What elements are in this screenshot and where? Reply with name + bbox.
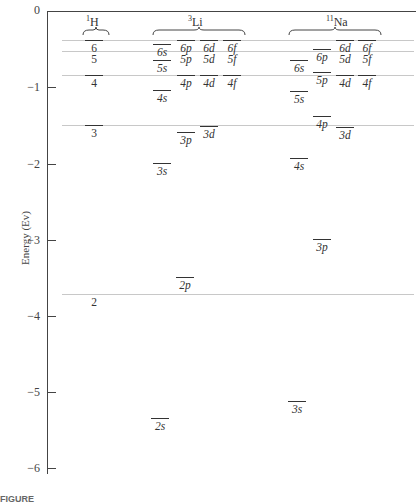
tick-label-minus-2: −2 [10,157,40,172]
level-li-4d: 4d [200,75,218,89]
level-li-2s: 2s [151,418,169,432]
level-li-5s: 5s [153,60,171,74]
tick-label-minus-5: −5 [10,385,40,400]
figure-caption: FIGURE [0,494,34,504]
reference-line-n3 [62,125,414,126]
tick-label-0: 0 [10,3,40,18]
tick-label-minus-6: −6 [10,461,40,476]
tick-label-minus-1: −1 [10,80,40,95]
level-na-5p: 5p [313,72,331,86]
level-na-3s: 3s [288,401,306,415]
brace-hydrogen [82,27,110,36]
level-li-3p: 3p [177,132,195,146]
level-li-5f: 5f [223,51,241,65]
level-li-3d: 3d [200,126,218,140]
tick-minus-3 [47,240,56,241]
level-na-5f: 5f [358,51,376,65]
tick-minus-1 [47,87,56,88]
level-li-5d: 5d [200,51,218,65]
level-h-n2: 2 [85,294,103,308]
level-na-4f: 4f [358,75,376,89]
level-na-6s: 6s [290,60,308,74]
level-na-5s: 5s [290,91,308,105]
brace-sodium [288,27,382,36]
level-h-n3: 3 [85,125,103,139]
level-na-4s: 4s [290,158,308,172]
level-li-3s: 3s [153,163,171,177]
tick-minus-5 [47,392,56,393]
level-h-n4: 4 [85,75,103,89]
level-na-3p: 3p [313,239,331,253]
brace-lithium [152,27,246,36]
tick-minus-2 [47,164,56,165]
tick-minus-6 [47,468,56,469]
level-na-3d: 3d [336,127,354,141]
y-axis-label: Energy (Ev) [19,211,31,265]
tick-label-minus-4: −4 [10,309,40,324]
level-na-4p: 4p [313,116,331,130]
level-na-4d: 4d [336,75,354,89]
level-li-2p: 2p [176,277,194,291]
level-li-4s: 4s [153,90,171,104]
top-border [47,11,416,12]
level-li-4p: 4p [177,75,195,89]
reference-line-n2 [62,294,414,295]
level-li-5p: 5p [177,51,195,65]
tick-minus-4 [47,316,56,317]
level-na-6p: 6p [313,49,331,63]
level-li-6s: 6s [153,44,171,58]
level-h-n5: 5 [85,51,103,65]
y-axis [47,11,48,474]
level-li-4f: 4f [223,75,241,89]
level-na-5d: 5d [336,51,354,65]
